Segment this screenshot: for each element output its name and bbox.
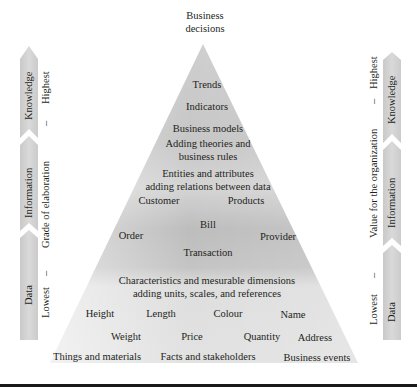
- left-segment-information: Information: [23, 168, 34, 218]
- pyramid-graphic: [0, 0, 417, 392]
- entity-customer: Customer: [139, 195, 180, 207]
- left-axis-dash-low: –: [40, 271, 51, 276]
- level-item-trends: Trends: [193, 79, 222, 91]
- entity-order: Order: [119, 230, 144, 242]
- entity-products: Products: [228, 195, 265, 207]
- left-segment-data: Data: [23, 285, 34, 305]
- right-axis-dash-low: –: [368, 273, 379, 278]
- right-axis-highest: Highest: [368, 56, 379, 89]
- level-item-business-models: Business models: [173, 123, 243, 135]
- data-description-line-1: Characteristics and mesurable dimensions: [119, 275, 295, 288]
- apex-label-line-1: Business: [185, 10, 224, 23]
- information-description: Entities and attributes adding relations…: [145, 168, 270, 193]
- right-axis-lowest: Lowest: [368, 294, 379, 325]
- entity-provider: Provider: [260, 231, 296, 243]
- data-description: Characteristics and mesurable dimensions…: [119, 275, 295, 300]
- apex-label-line-2: decisions: [185, 23, 224, 36]
- attribute-weight: Weight: [111, 331, 141, 343]
- right-segment-knowledge: Knowledge: [386, 76, 397, 124]
- knowledge-description-line-2: business rules: [165, 151, 250, 164]
- base-label-facts-stakeholders: Facts and stakeholders: [160, 351, 255, 363]
- entity-bill: Bill: [200, 219, 216, 231]
- apex-label: Business decisions: [185, 10, 224, 35]
- information-description-line-2: adding relations between data: [145, 181, 270, 194]
- data-description-line-2: adding units, scales, and references: [119, 288, 295, 301]
- entity-transaction: Transaction: [183, 247, 232, 259]
- information-description-line-1: Entities and attributes: [145, 168, 270, 181]
- base-label-business-events: Business events: [284, 352, 351, 364]
- attribute-quantity: Quantity: [244, 331, 281, 343]
- attribute-name: Name: [280, 309, 305, 321]
- base-label-things-materials: Things and materials: [53, 351, 141, 363]
- attribute-length: Length: [146, 308, 176, 320]
- level-item-indicators: Indicators: [186, 101, 228, 113]
- left-axis-lowest: Lowest: [40, 287, 51, 318]
- knowledge-description: Adding theories and business rules: [165, 138, 250, 163]
- right-segment-information: Information: [386, 178, 397, 228]
- left-axis-dash-high: –: [40, 121, 51, 126]
- left-axis-highest: Highest: [40, 71, 51, 104]
- attribute-height: Height: [86, 308, 115, 320]
- attribute-price: Price: [181, 331, 203, 343]
- knowledge-pyramid-diagram: Business decisions Trends Indicators Bus…: [0, 0, 417, 392]
- left-segment-knowledge: Knowledge: [23, 72, 34, 120]
- attribute-colour: Colour: [213, 308, 242, 320]
- attribute-address: Address: [298, 332, 332, 344]
- knowledge-description-line-1: Adding theories and: [165, 138, 250, 151]
- left-axis-title: Grade of elaboration: [40, 161, 51, 248]
- bottom-rule-divider: [0, 384, 417, 387]
- right-axis-title: Value for the organization: [368, 129, 379, 238]
- right-segment-data: Data: [386, 302, 397, 322]
- right-axis-dash-high: –: [368, 99, 379, 104]
